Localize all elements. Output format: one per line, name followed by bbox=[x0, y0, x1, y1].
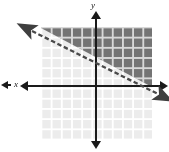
boundary-line-segment bbox=[32, 31, 158, 94]
boundary-line bbox=[0, 0, 169, 152]
inequality-graph-figure: x y bbox=[0, 0, 169, 152]
